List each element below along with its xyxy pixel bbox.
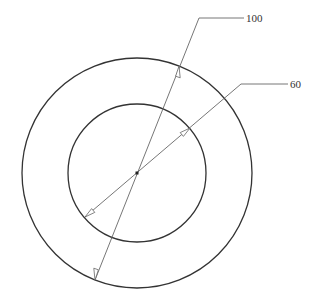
center-point bbox=[136, 172, 139, 175]
inner-leader-line bbox=[85, 84, 288, 217]
outer-leader-line bbox=[95, 18, 244, 280]
inner-diameter-dimension: 60 bbox=[85, 78, 302, 217]
outer-arrow-top-icon bbox=[176, 66, 181, 78]
inner-diameter-label: 60 bbox=[290, 78, 302, 90]
outer-diameter-label: 100 bbox=[246, 12, 263, 24]
technical-drawing: 100 60 bbox=[0, 0, 325, 308]
